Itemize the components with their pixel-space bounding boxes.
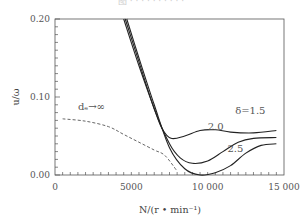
y-axis-tick-labels: 0.000.100.20	[30, 14, 50, 180]
y-tick-label: 0.10	[30, 92, 50, 102]
y-tick-label: 0.00	[30, 170, 50, 180]
x-tick-label: 10 000	[192, 182, 224, 192]
series-line	[127, 19, 277, 175]
y-axis-ticks	[55, 19, 60, 175]
x-tick-label: 15 000	[268, 182, 300, 192]
series-label: δ=1.5	[235, 105, 265, 116]
y-axis-title: u/ω	[10, 88, 21, 105]
series-labels: δ=1.52.02.5dₑ→∞	[78, 101, 266, 153]
line-chart: 0.000.100.20 0500010 00015 000 δ=1.52.02…	[0, 0, 302, 223]
series-line	[125, 19, 276, 163]
plot-frame	[55, 19, 284, 175]
x-axis-title: N/(r • min⁻¹)	[139, 204, 201, 215]
y-tick-label: 0.20	[30, 14, 50, 24]
series-label: dₑ→∞	[78, 101, 105, 112]
x-axis-ticks	[63, 172, 277, 175]
series-label: 2.5	[228, 143, 244, 154]
x-axis-tick-labels: 0500010 00015 000	[52, 182, 300, 192]
series-line	[63, 119, 178, 171]
x-tick-label: 0	[52, 182, 58, 192]
series-lines	[63, 19, 277, 175]
series-line	[124, 19, 277, 139]
series-label: 2.0	[208, 121, 224, 132]
x-tick-label: 5000	[120, 182, 143, 192]
